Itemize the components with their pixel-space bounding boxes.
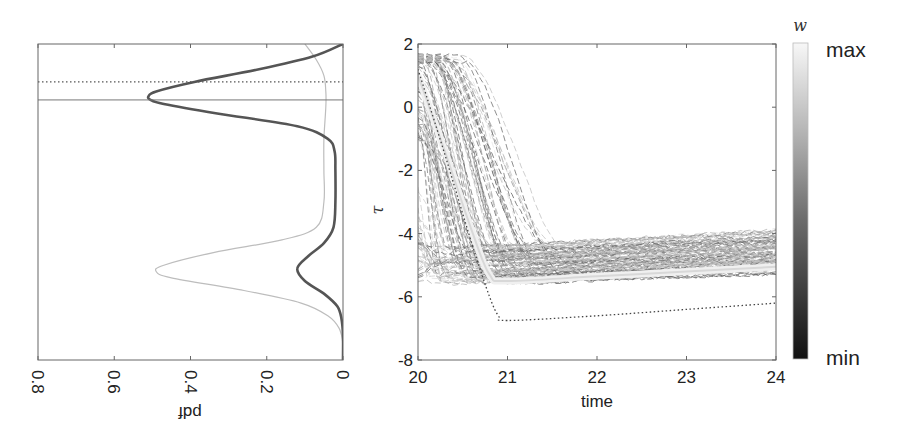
time-tick-label: 24 <box>767 368 786 387</box>
pdf-tick-label: 0.6 <box>104 370 123 394</box>
pdf-axis-label: pdf <box>178 403 202 422</box>
pdf-tick-label: 0 <box>333 370 352 379</box>
colorbar-gradient <box>793 43 808 359</box>
tau-tick-label: 0 <box>404 98 413 117</box>
colorbar-label-w: w <box>793 16 807 35</box>
pdf-axes-frame <box>38 44 343 360</box>
time-tick-label: 21 <box>498 368 517 387</box>
pdf-panel: 0.80.60.40.20 pdf <box>28 44 352 422</box>
prior-pdf-curve <box>155 44 343 360</box>
colorbar: w max min <box>793 16 866 369</box>
tau-tick-label: -4 <box>398 225 413 244</box>
colorbar-max-label: max <box>826 38 866 61</box>
tau-tick-label: -8 <box>398 351 413 370</box>
pdf-x-ticks: 0.80.60.40.20 <box>28 44 352 394</box>
tau-tick-label: -6 <box>398 288 413 307</box>
pdf-tick-label: 0.2 <box>257 370 276 394</box>
pdf-curves <box>148 44 343 360</box>
tau-tick-label: 2 <box>404 35 413 54</box>
time-tick-label: 23 <box>677 368 696 387</box>
time-tick-label: 22 <box>588 368 607 387</box>
posterior-pdf-curve <box>148 44 343 360</box>
trajectory-ensemble <box>418 54 776 321</box>
pdf-tick-label: 0.4 <box>181 370 200 394</box>
colorbar-min-label: min <box>826 346 860 369</box>
figure: 0.80.60.40.20 pdf 202122232420-2-4-6-8 t… <box>0 0 906 436</box>
time-tick-label: 20 <box>409 368 428 387</box>
tau-axis-label: τ <box>368 204 387 214</box>
tau-tick-label: -2 <box>398 161 413 180</box>
pdf-tick-label: 0.8 <box>28 370 47 394</box>
time-axis-label: time <box>581 392 613 411</box>
trajectories-panel: 202122232420-2-4-6-8 time τ <box>368 35 785 411</box>
